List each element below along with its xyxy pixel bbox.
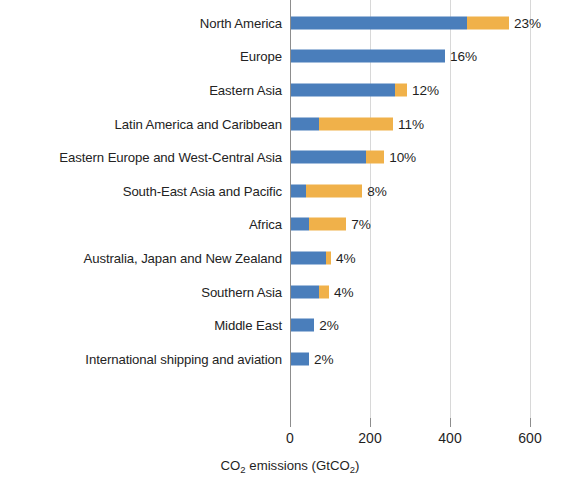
bar-value-label: 7% <box>351 217 370 232</box>
bar-row: International shipping and aviation2% <box>0 342 563 376</box>
bar-value-label: 16% <box>450 49 477 64</box>
category-label: South-East Asia and Pacific <box>123 183 282 198</box>
stacked-bar[interactable] <box>291 83 407 96</box>
bar-segment-series2[interactable] <box>319 117 393 130</box>
x-axis-title-sub2: 2 <box>350 464 355 475</box>
bar-row: Middle East2% <box>0 308 563 342</box>
stacked-bar[interactable] <box>291 50 445 63</box>
bar-segment-series1[interactable] <box>291 83 395 96</box>
bar-segment-series1[interactable] <box>291 251 326 264</box>
category-label: Southern Asia <box>201 284 282 299</box>
bar-segment-series1[interactable] <box>291 151 366 164</box>
category-label: North America <box>200 15 282 30</box>
bar-row: Eastern Asia12% <box>0 73 563 107</box>
bar-value-label: 4% <box>334 284 353 299</box>
bar-segment-series1[interactable] <box>291 16 467 29</box>
x-tick-label: 400 <box>438 430 461 446</box>
co2-emissions-bar-chart: North America23%Europe16%Eastern Asia12%… <box>0 0 563 485</box>
stacked-bar[interactable] <box>291 117 393 130</box>
x-axis: 0200400600 CO2 emissions (GtCO2) <box>0 418 563 485</box>
bar-segment-series1[interactable] <box>291 50 445 63</box>
x-tick-mark <box>290 418 291 427</box>
bar-row: Latin America and Caribbean11% <box>0 107 563 141</box>
bar-row: Africa7% <box>0 208 563 242</box>
bar-segment-series2[interactable] <box>326 251 331 264</box>
bar-segment-series1[interactable] <box>291 352 309 365</box>
bar-segment-series1[interactable] <box>291 285 319 298</box>
plot-area: North America23%Europe16%Eastern Asia12%… <box>0 0 563 425</box>
x-tick-mark <box>370 418 371 427</box>
x-axis-title: CO2 emissions (GtCO2) <box>221 458 360 473</box>
bar-segment-series1[interactable] <box>291 319 314 332</box>
category-label: Australia, Japan and New Zealand <box>84 250 282 265</box>
stacked-bar[interactable] <box>291 151 384 164</box>
bar-value-label: 2% <box>314 351 333 366</box>
bar-value-label: 10% <box>389 150 416 165</box>
bar-segment-series2[interactable] <box>309 218 346 231</box>
x-tick-label: 200 <box>358 430 381 446</box>
bar-segment-series1[interactable] <box>291 218 309 231</box>
category-label: Latin America and Caribbean <box>115 116 282 131</box>
stacked-bar[interactable] <box>291 352 309 365</box>
bar-row: North America23% <box>0 6 563 40</box>
category-label: Europe <box>240 49 282 64</box>
x-axis-title-pre: CO <box>221 458 241 473</box>
stacked-bar[interactable] <box>291 218 346 231</box>
bar-row: Europe16% <box>0 40 563 74</box>
bar-segment-series1[interactable] <box>291 117 319 130</box>
bar-segment-series2[interactable] <box>306 184 362 197</box>
stacked-bar[interactable] <box>291 184 362 197</box>
bar-row: South-East Asia and Pacific8% <box>0 174 563 208</box>
bar-value-label: 8% <box>367 183 386 198</box>
stacked-bar[interactable] <box>291 285 329 298</box>
category-label: Africa <box>249 217 282 232</box>
bar-segment-series1[interactable] <box>291 184 306 197</box>
bar-value-label: 12% <box>412 82 439 97</box>
bar-segment-series2[interactable] <box>395 83 407 96</box>
bar-segment-series2[interactable] <box>467 16 509 29</box>
bar-value-label: 11% <box>398 116 424 131</box>
category-label: International shipping and aviation <box>85 351 282 366</box>
bar-row: Southern Asia4% <box>0 275 563 309</box>
bar-segment-series2[interactable] <box>319 285 329 298</box>
x-axis-title-sub1: 2 <box>240 464 245 475</box>
x-axis-title-mid: emissions (GtCO <box>246 458 350 473</box>
bar-row: Eastern Europe and West-Central Asia10% <box>0 140 563 174</box>
x-tick-label: 0 <box>286 430 294 446</box>
bar-value-label: 4% <box>336 250 355 265</box>
bar-value-label: 2% <box>319 318 338 333</box>
x-tick-mark <box>450 418 451 427</box>
x-tick-label: 600 <box>518 430 541 446</box>
category-label: Middle East <box>214 318 282 333</box>
category-label: Eastern Europe and West-Central Asia <box>59 150 282 165</box>
category-label: Eastern Asia <box>209 82 282 97</box>
bar-row: Australia, Japan and New Zealand4% <box>0 241 563 275</box>
x-tick-mark <box>530 418 531 427</box>
stacked-bar[interactable] <box>291 319 314 332</box>
stacked-bar[interactable] <box>291 16 509 29</box>
x-axis-title-post: ) <box>355 458 359 473</box>
stacked-bar[interactable] <box>291 251 331 264</box>
bar-value-label: 23% <box>514 15 541 30</box>
bar-segment-series2[interactable] <box>366 151 384 164</box>
